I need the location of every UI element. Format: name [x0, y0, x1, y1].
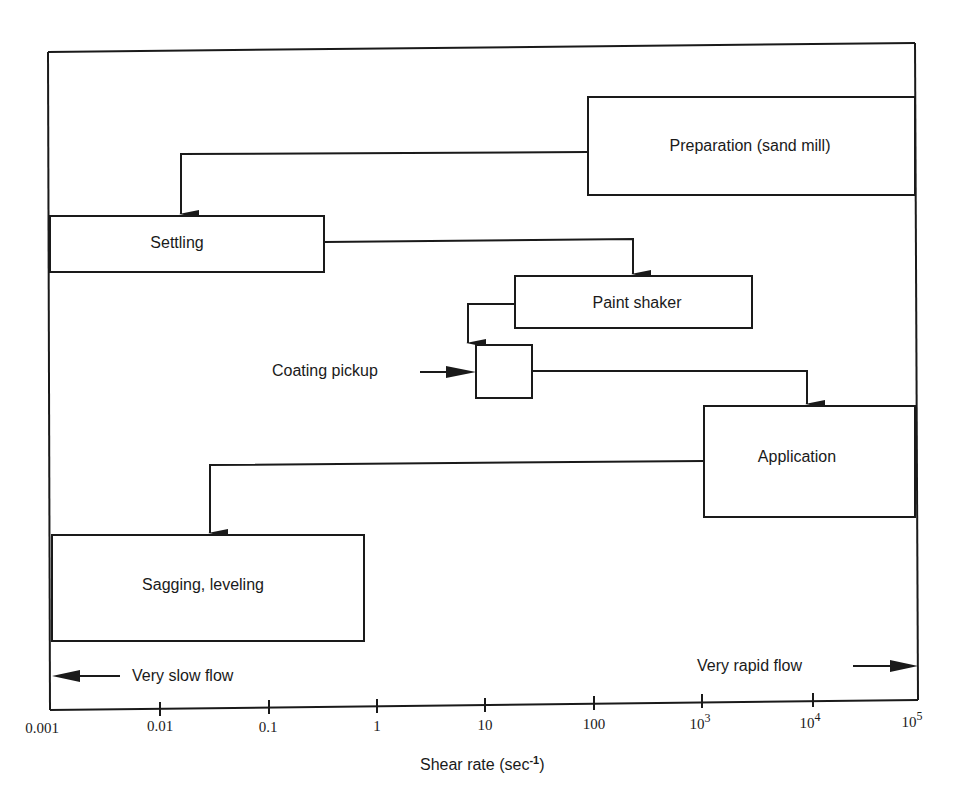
very-rapid-flow-annotation: Very rapid flow	[697, 657, 918, 674]
left-arrow-icon	[52, 670, 80, 682]
flow-arrow-pickup-to-application	[532, 371, 807, 404]
stage-settling: Settling	[50, 216, 324, 272]
very-slow-flow-annotation: Very slow flow	[52, 667, 234, 684]
svg-text:Very slow flow: Very slow flow	[132, 667, 234, 684]
tick-label: 0.01	[147, 718, 173, 734]
tick-label: 10	[478, 717, 493, 733]
x-axis	[50, 693, 918, 716]
right-arrow-icon	[890, 660, 918, 672]
flow-arrow-application-to-sagging	[210, 461, 704, 533]
flow-arrow-settling-to-paint-shaker	[324, 239, 633, 274]
stage-paint-shaker: Paint shaker	[515, 276, 752, 328]
stage-coating-pickup	[476, 345, 532, 398]
tick-label: 0.001	[25, 720, 59, 736]
svg-text:Very rapid flow: Very rapid flow	[697, 657, 802, 674]
shear-rate-process-diagram: 0.001 0.01 0.1 1 10 100 103 104 105 Shea…	[0, 0, 961, 808]
tick-label: 103	[690, 711, 711, 732]
stage-label: Paint shaker	[593, 294, 683, 311]
flow-arrow-paint-shaker-to-pickup	[468, 304, 515, 343]
tick-label: 100	[583, 716, 606, 732]
stage-label: Preparation (sand mill)	[670, 137, 831, 154]
flow-arrow-preparation-to-settling	[181, 152, 588, 214]
coating-pickup-input-arrow	[420, 366, 476, 378]
stage-sagging-leveling: Sagging, leveling	[52, 535, 364, 641]
x-axis-title: Shear rate (sec-1)	[420, 754, 545, 773]
tick-label: 104	[800, 710, 821, 731]
stage-preparation: Preparation (sand mill)	[588, 97, 915, 195]
tick-label: 105	[902, 709, 923, 730]
coating-pickup-label: Coating pickup	[272, 362, 378, 379]
stage-label: Application	[758, 448, 836, 465]
tick-label: 0.1	[259, 719, 278, 735]
stage-application: Application	[704, 406, 915, 517]
stage-label: Sagging, leveling	[142, 576, 264, 593]
tick-label: 1	[373, 718, 381, 734]
stage-label: Settling	[150, 234, 203, 251]
